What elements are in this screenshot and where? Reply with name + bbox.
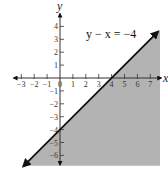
y-tick-label: −6 [49, 151, 58, 160]
x-axis-label: x [162, 71, 168, 85]
y-tick-label: 4 [54, 22, 58, 31]
x-tick-label: 4 [110, 80, 114, 89]
inequality-graph: −3−2−101234567−6−5−4−3−2−11234 x y y − x… [0, 0, 168, 170]
x-tick-label: −3 [17, 80, 26, 89]
x-tick-label: 3 [97, 80, 101, 89]
x-tick-label: 0 [58, 80, 62, 89]
y-axis-label: y [56, 0, 63, 13]
y-tick-label: 3 [54, 35, 58, 44]
y-tick-label: 2 [54, 48, 58, 57]
x-tick-label: 1 [71, 80, 75, 89]
equation-label: y − x = −4 [86, 27, 136, 41]
x-tick-label: 2 [84, 80, 88, 89]
x-tick-label: 6 [135, 80, 139, 89]
x-tick-label: −2 [30, 80, 39, 89]
y-tick-label: −2 [49, 100, 58, 109]
y-tick-label: 1 [54, 61, 58, 70]
y-tick-label: −3 [49, 113, 58, 122]
x-tick-label: 7 [148, 80, 152, 89]
y-tick-label: −1 [49, 87, 58, 96]
x-tick-label: 5 [123, 80, 127, 89]
